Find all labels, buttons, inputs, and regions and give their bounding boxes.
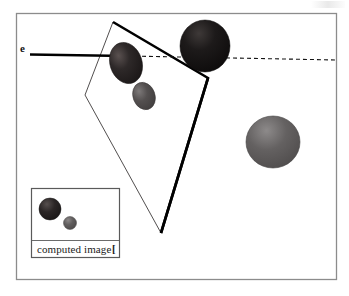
black-sphere-top [180, 20, 230, 72]
inset-dark-sphere [39, 198, 61, 220]
inset-caption-marker: [ [112, 242, 116, 254]
gray-sphere-right [246, 116, 300, 168]
inset-caption: computed image [37, 243, 111, 255]
figure-canvas: e computed image [ [0, 0, 349, 296]
inset-gray-sphere [64, 217, 77, 230]
ray-origin-label-e: e [20, 42, 25, 54]
